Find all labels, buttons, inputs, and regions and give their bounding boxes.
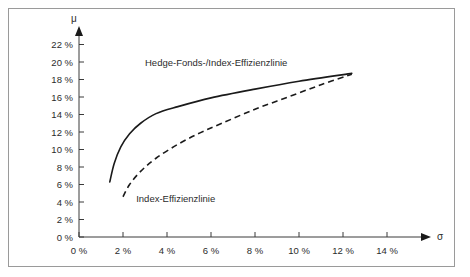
chart-page: μ σ 0 % 2 % 4 % 6 % 8 % 10 % 12 % 14 % <box>0 0 470 277</box>
x-tick-label: 10 % <box>288 245 310 256</box>
y-tick-label: 4 % <box>57 197 74 208</box>
efficient-frontier-chart: μ σ 0 % 2 % 4 % 6 % 8 % 10 % 12 % 14 % <box>0 0 470 277</box>
x-axis-title: σ <box>437 231 444 242</box>
x-axis-ticks <box>79 232 387 237</box>
x-tick-label: 12 % <box>332 245 354 256</box>
x-tick-label: 4 % <box>159 245 176 256</box>
y-tick-label: 22 % <box>51 39 73 50</box>
annotation-index-effizienzlinie: Index-Effizienzlinie <box>136 193 215 204</box>
y-tick-label: 14 % <box>51 109 73 120</box>
y-tick-label: 10 % <box>51 144 73 155</box>
y-axis-ticks <box>79 45 84 238</box>
annotation-hedge-fonds-index-effizienzlinie: Hedge-Fonds-/Index-Effizienzlinie <box>145 57 287 68</box>
y-tick-label: 0 % <box>57 232 74 243</box>
y-tick-label: 8 % <box>57 162 74 173</box>
y-tick-label: 2 % <box>57 214 74 225</box>
y-tick-label: 16 % <box>51 92 73 103</box>
series-hedge-fonds-index-efficient-frontier <box>110 73 352 182</box>
x-axis-arrow-icon <box>421 233 431 241</box>
y-axis-arrow-icon <box>75 26 83 36</box>
y-tick-label: 18 % <box>51 74 73 85</box>
x-tick-label: 8 % <box>247 245 264 256</box>
y-tick-label: 20 % <box>51 57 73 68</box>
y-tick-label: 12 % <box>51 127 73 138</box>
x-tick-label: 14 % <box>376 245 398 256</box>
x-tick-label: 0 % <box>71 245 88 256</box>
y-axis-tick-labels: 0 % 2 % 4 % 6 % 8 % 10 % 12 % 14 % 16 % … <box>51 39 73 243</box>
y-axis-title: μ <box>71 13 77 24</box>
x-axis-tick-labels: 0 % 2 % 4 % 6 % 8 % 10 % 12 % 14 % <box>71 245 399 256</box>
y-tick-label: 6 % <box>57 179 74 190</box>
x-tick-label: 2 % <box>115 245 132 256</box>
x-tick-label: 6 % <box>203 245 220 256</box>
